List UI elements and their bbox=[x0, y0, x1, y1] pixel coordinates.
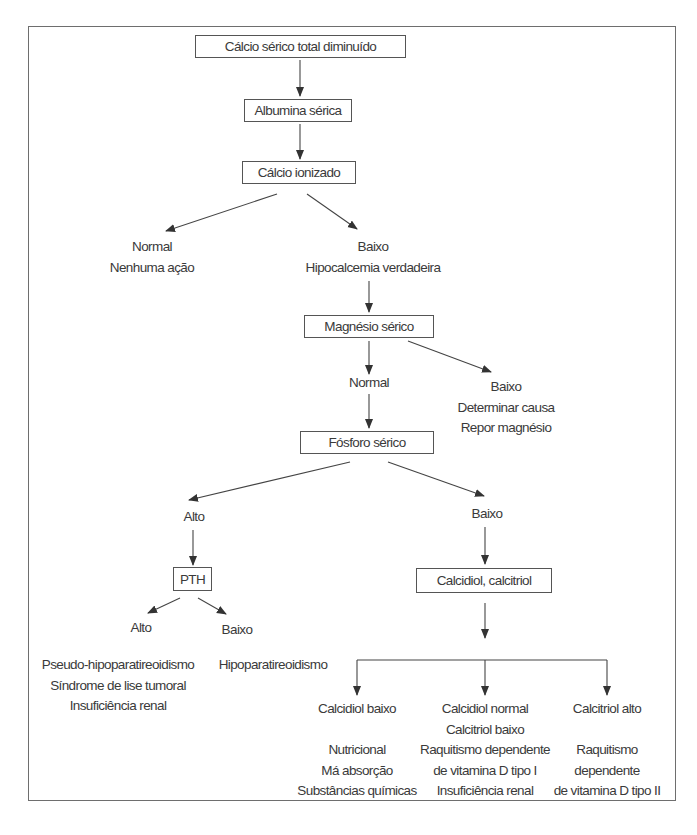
branch-heading-2: Calcitriol baixo bbox=[420, 720, 550, 741]
label-normal: Normal bbox=[349, 373, 389, 394]
cause-insuficiencia-renal: Insuficiência renal bbox=[42, 696, 195, 717]
cause-pseudo-hipoparatireoidismo: Pseudo-hipoparatireoidismo bbox=[42, 655, 195, 676]
label-nenhuma-acao: Nenhuma ação bbox=[110, 258, 194, 279]
node-calcio-serico-total: Cálcio sérico total diminuído bbox=[195, 35, 406, 58]
node-magnesio-serico: Magnésio sérico bbox=[304, 315, 434, 338]
label-baixo: Baixo bbox=[472, 504, 503, 525]
branch-calcidiol-normal: Calcidiol normal Calcitriol baixo Raquit… bbox=[420, 699, 550, 802]
label-pth-baixo-causes: Hipoparatireoidismo bbox=[219, 655, 328, 676]
branch-heading: Calcidiol baixo bbox=[297, 699, 416, 720]
branch-calcitriol-alto: Calcitriol alto Raquitismo dependente de… bbox=[554, 699, 661, 802]
label-baixo: Baixo bbox=[458, 377, 555, 398]
node-pth: PTH bbox=[173, 567, 212, 591]
cause-vitamina-d-tipo-ii: de vitamina D tipo II bbox=[554, 781, 661, 802]
label-magnesio-baixo: Baixo Determinar causa Repor magnésio bbox=[458, 377, 555, 439]
label-alto: Alto bbox=[184, 507, 205, 528]
label-alto: Alto bbox=[131, 618, 152, 639]
branch-heading: Calcitriol alto bbox=[554, 699, 661, 720]
cause-dependente: dependente bbox=[554, 761, 661, 782]
label-pth-baixo: Baixo bbox=[222, 620, 253, 641]
node-albumina-serica: Albumina sérica bbox=[244, 99, 352, 122]
cause-raquitismo-dependente: Raquitismo dependente bbox=[420, 740, 550, 761]
label-pth-alto-causes: Pseudo-hipoparatireoidismo Síndrome de l… bbox=[42, 655, 195, 717]
cause-substancias-quimicas: Substâncias químicas bbox=[297, 781, 416, 802]
label-magnesio-normal: Normal bbox=[349, 373, 389, 394]
label-determinar-causa: Determinar causa bbox=[458, 398, 555, 419]
cause-vitamina-d-tipo-i: de vitamina D tipo I bbox=[420, 761, 550, 782]
cause-hipoparatireoidismo: Hipoparatireoidismo bbox=[219, 655, 328, 676]
cause-nutricional: Nutricional bbox=[297, 740, 416, 761]
cause-ma-absorcao: Má absorção bbox=[297, 761, 416, 782]
cause-raquitismo: Raquitismo bbox=[554, 740, 661, 761]
node-calcio-ionizado: Cálcio ionizado bbox=[242, 161, 356, 184]
cause-sindrome-lise-tumoral: Síndrome de lise tumoral bbox=[42, 676, 195, 697]
branch-calcidiol-baixo: Calcidiol baixo Nutricional Má absorção … bbox=[297, 699, 416, 802]
label-fosforo-baixo: Baixo bbox=[472, 504, 503, 525]
label-fosforo-alto: Alto bbox=[184, 507, 205, 528]
label-baixo: Baixo bbox=[222, 620, 253, 641]
label-hipocalcemia-verdadeira: Hipocalcemia verdadeira bbox=[306, 258, 441, 279]
node-fosforo-serico: Fósforo sérico bbox=[300, 431, 434, 454]
node-calcidiol-calcitriol: Calcidiol, calcitriol bbox=[416, 568, 552, 593]
label-repor-magnesio: Repor magnésio bbox=[458, 418, 555, 439]
cause-insuficiencia-renal: Insuficiência renal bbox=[420, 781, 550, 802]
label-ionizado-normal: Normal Nenhuma ação bbox=[110, 237, 194, 278]
label-ionizado-baixo: Baixo Hipocalcemia verdadeira bbox=[306, 237, 441, 278]
label-baixo: Baixo bbox=[306, 237, 441, 258]
label-pth-alto: Alto bbox=[131, 618, 152, 639]
label-normal: Normal bbox=[110, 237, 194, 258]
branch-heading: Calcidiol normal bbox=[420, 699, 550, 720]
